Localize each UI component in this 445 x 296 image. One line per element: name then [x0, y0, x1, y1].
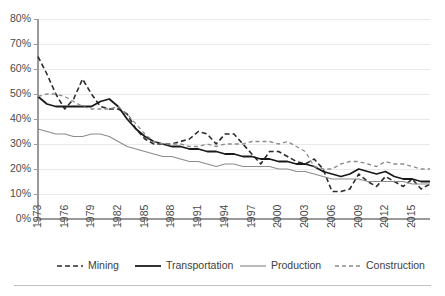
- x-tick-label: 1991: [191, 204, 203, 228]
- y-tick-label: 70%: [10, 37, 31, 49]
- x-tick-label: 2009: [352, 204, 364, 228]
- x-tick-label: 1988: [164, 204, 176, 228]
- x-tick-label: 1976: [58, 204, 70, 228]
- line-chart: 0%10%20%30%40%50%60%70%80% 1973197619791…: [0, 0, 445, 296]
- legend-label-construction: Construction: [366, 259, 425, 271]
- x-tick-label: 1985: [138, 204, 150, 228]
- x-tick-label: 2012: [378, 204, 390, 228]
- x-tick-label: 1994: [218, 204, 230, 228]
- series-line-mining: [38, 57, 430, 192]
- data-series-group: [38, 57, 430, 192]
- y-tick-label: 30%: [10, 137, 31, 149]
- x-tick-label: 1982: [111, 204, 123, 228]
- y-axis: [34, 19, 38, 219]
- x-tick-label: 2000: [271, 204, 283, 228]
- legend-label-mining: Mining: [88, 259, 119, 271]
- chart-container: 0%10%20%30%40%50%60%70%80% 1973197619791…: [0, 0, 445, 296]
- x-tick-labels: 1973197619791982198519881991199419972000…: [31, 204, 417, 228]
- x-tick-label: 1979: [84, 204, 96, 228]
- y-tick-label: 40%: [10, 112, 31, 124]
- y-tick-labels: 0%10%20%30%40%50%60%70%80%: [10, 12, 31, 224]
- x-tick-label: 1997: [245, 204, 257, 228]
- y-tick-label: 10%: [10, 187, 31, 199]
- y-tick-label: 20%: [10, 162, 31, 174]
- y-tick-label: 0%: [16, 212, 31, 224]
- gridlines: [38, 19, 430, 194]
- x-tick-label: 2006: [325, 204, 337, 228]
- x-tick-label: 2015: [405, 204, 417, 228]
- legend-label-production: Production: [271, 259, 321, 271]
- x-tick-label: 1973: [31, 204, 43, 228]
- y-tick-label: 80%: [10, 12, 31, 24]
- series-line-construction: [38, 94, 430, 169]
- chart-legend: MiningTransportationProductionConstructi…: [14, 259, 431, 285]
- legend-label-transportation: Transportation: [166, 259, 233, 271]
- y-tick-label: 60%: [10, 62, 31, 74]
- y-tick-label: 50%: [10, 87, 31, 99]
- x-axis: [38, 219, 430, 224]
- series-line-production: [38, 129, 430, 184]
- x-tick-label: 2003: [298, 204, 310, 228]
